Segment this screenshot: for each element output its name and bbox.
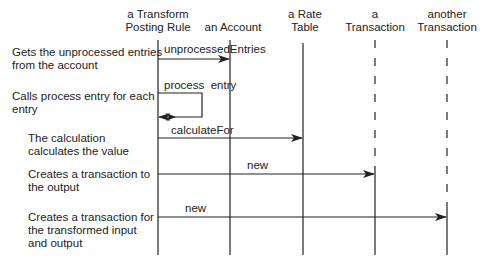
- note-process-entry: Calls process entry for each entry: [12, 90, 155, 116]
- note-line: Creates a transaction to: [28, 168, 150, 181]
- note-line: Calls process entry for each: [12, 90, 155, 103]
- note-line: The calculation: [28, 132, 129, 145]
- message-label-new-another-transaction: new: [185, 202, 206, 215]
- participant-label-line2: Posting Rule: [125, 21, 190, 34]
- note-line: Gets the unprocessed entries: [12, 46, 162, 59]
- message-label-calculate-for: calculateFor: [171, 124, 234, 137]
- note-line: entry: [12, 103, 155, 116]
- note-line: and output: [28, 237, 154, 250]
- participant-label-line2: Table: [288, 21, 322, 34]
- note-line: calculates the value: [28, 145, 129, 158]
- note-line: Creates a transaction for: [28, 211, 154, 224]
- participant-label-line1: a: [345, 8, 405, 21]
- participant-transform-posting-rule: a Transform Posting Rule: [125, 8, 190, 34]
- participant-label-line2: an Account: [205, 21, 262, 34]
- note-create-transaction-output: Creates a transaction to the output: [28, 168, 150, 194]
- note-line: the transformed input: [28, 224, 154, 237]
- participant-label-line2: Transaction: [345, 21, 405, 34]
- note-calculation: The calculation calculates the value: [28, 132, 129, 158]
- participant-account: an Account: [205, 21, 262, 34]
- note-get-unprocessed: Gets the unprocessed entries from the ac…: [12, 46, 162, 72]
- participant-another-transaction: another Transaction: [417, 8, 477, 34]
- participant-transaction: a Transaction: [345, 8, 405, 34]
- participant-label-line1: another: [417, 8, 477, 21]
- note-line: from the account: [12, 59, 162, 72]
- note-line: the output: [28, 181, 150, 194]
- participant-label-line1: a Rate: [288, 8, 322, 21]
- arrow-process-entry: [158, 93, 202, 117]
- participant-label-line1: a Transform: [125, 8, 190, 21]
- note-create-transaction-transformed: Creates a transaction for the transforme…: [28, 211, 154, 250]
- message-label-new-transaction: new: [247, 159, 268, 172]
- participant-rate-table: a Rate Table: [288, 8, 322, 34]
- message-label-unprocessed-entries: unprocessedEntries: [164, 43, 266, 56]
- message-label-process-entry: process entry: [164, 79, 236, 92]
- participant-label-line2: Transaction: [417, 21, 477, 34]
